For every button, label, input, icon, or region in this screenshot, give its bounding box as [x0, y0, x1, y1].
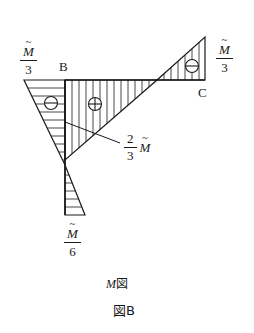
point-c-label: C: [198, 86, 207, 99]
leader-line: [65, 122, 120, 143]
left-hatch: [0, 88, 70, 160]
bottom-moment-label: M 6: [64, 226, 81, 260]
sign-minus-left-icon: [45, 97, 58, 110]
figure-label: 図B: [113, 300, 135, 319]
right-top-moment-label: M 3: [216, 42, 233, 76]
sign-plus-middle-icon: [89, 98, 102, 111]
moment-diagram-caption: M図: [106, 274, 128, 292]
point-b-label: B: [59, 60, 68, 73]
right-moment-triangle: [157, 37, 205, 80]
bottom-moment-triangle: [65, 165, 85, 215]
middle-moment-label: 2 3 M: [124, 131, 150, 164]
sign-minus-right-icon: [186, 60, 199, 73]
left-top-moment-label: M 3: [20, 44, 37, 78]
left-moment-triangle: [24, 80, 65, 165]
